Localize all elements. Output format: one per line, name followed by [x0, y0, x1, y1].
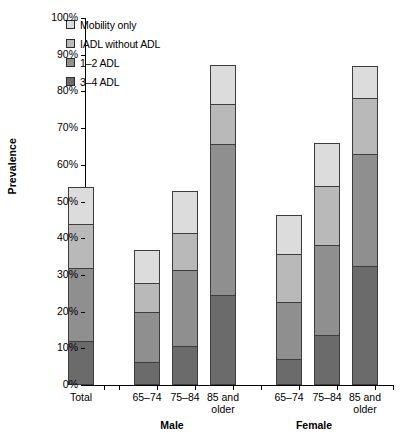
- x-group-label: Male: [122, 419, 222, 431]
- bar-segment: [352, 266, 378, 385]
- chart-container: Prevalence Mobility onlyIADL without ADL…: [0, 0, 407, 440]
- bar-stack: [314, 18, 340, 385]
- bar-segment: [276, 359, 302, 385]
- y-tick-mark: [81, 385, 85, 386]
- bar-segment: [134, 250, 160, 283]
- bar-segment: [276, 215, 302, 254]
- y-tick-label: 40%: [57, 231, 78, 243]
- bar-stack: [276, 18, 302, 385]
- bar-segment: [134, 283, 160, 311]
- y-tick-label: 80%: [57, 84, 78, 96]
- bar-segment: [134, 312, 160, 363]
- legend-item: IADL without ADL: [66, 34, 160, 53]
- bar-segment: [314, 186, 340, 245]
- y-tick-mark: [81, 202, 85, 203]
- y-tick-label: 90%: [57, 48, 78, 60]
- bar-stack: [210, 18, 236, 385]
- bar-segment: [210, 144, 236, 296]
- x-tick-mark: [157, 385, 158, 390]
- bar-segment: [314, 245, 340, 335]
- bar-stack: [172, 18, 198, 385]
- y-tick-mark: [81, 18, 85, 19]
- y-tick-mark: [81, 312, 85, 313]
- legend-item: 3–4 ADL: [66, 72, 160, 91]
- x-tick-label: 85 and older: [330, 392, 400, 415]
- bar-segment: [172, 346, 198, 385]
- x-tick-mark: [337, 385, 338, 390]
- legend-item: 1–2 ADL: [66, 53, 160, 72]
- bar-segment: [352, 98, 378, 155]
- legend-label: 1–2 ADL: [80, 57, 120, 69]
- x-tick-mark: [261, 385, 262, 390]
- y-tick-mark: [81, 275, 85, 276]
- x-tick-mark: [104, 385, 105, 390]
- y-tick-label: 50%: [57, 195, 78, 207]
- y-tick-mark: [81, 238, 85, 239]
- legend-swatch-icon: [66, 39, 75, 48]
- legend-label: IADL without ADL: [80, 38, 160, 50]
- bar-segment: [172, 270, 198, 346]
- x-tick-label: Total: [46, 392, 116, 404]
- y-tick-label: 60%: [57, 158, 78, 170]
- bar-segment: [276, 302, 302, 359]
- y-tick-mark: [81, 165, 85, 166]
- x-tick-mark: [393, 385, 394, 390]
- x-tick-label: 85 and older: [188, 392, 258, 415]
- bar-segment: [134, 362, 160, 385]
- bar-segment: [172, 191, 198, 232]
- y-tick-mark: [81, 55, 85, 56]
- bar-segment: [314, 335, 340, 385]
- bar-segment: [352, 154, 378, 266]
- y-tick-label: 70%: [57, 121, 78, 133]
- bar-segment: [172, 233, 198, 270]
- bar-segment: [352, 66, 378, 97]
- bar-segment: [276, 254, 302, 302]
- y-tick-mark: [81, 91, 85, 92]
- y-tick-label: 100%: [51, 11, 78, 23]
- y-tick-mark: [81, 348, 85, 349]
- legend-label: Mobility only: [80, 19, 136, 31]
- bar-segment: [210, 295, 236, 385]
- y-axis-title: Prevalence: [6, 138, 20, 194]
- y-tick-label: 0%: [63, 378, 78, 390]
- chart-legend: Mobility onlyIADL without ADL1–2 ADL3–4 …: [66, 15, 160, 91]
- x-tick-mark: [299, 385, 300, 390]
- y-tick-mark: [81, 128, 85, 129]
- x-tick-mark: [375, 385, 376, 390]
- x-tick-mark: [195, 385, 196, 390]
- y-tick-label: 30%: [57, 268, 78, 280]
- y-tick-label: 20%: [57, 305, 78, 317]
- bar-stack: [352, 18, 378, 385]
- x-axis-line: [85, 385, 394, 386]
- bar-segment: [210, 65, 236, 104]
- legend-label: 3–4 ADL: [80, 76, 120, 88]
- x-tick-mark: [119, 385, 120, 390]
- bar-segment: [314, 143, 340, 186]
- x-tick-mark: [233, 385, 234, 390]
- bar-segment: [210, 104, 236, 143]
- y-tick-label: 10%: [57, 341, 78, 353]
- x-group-label: Female: [264, 419, 364, 431]
